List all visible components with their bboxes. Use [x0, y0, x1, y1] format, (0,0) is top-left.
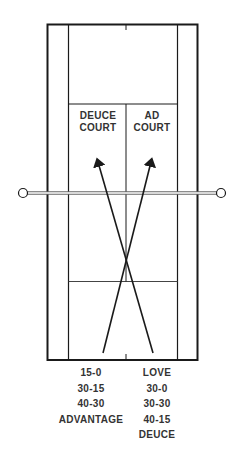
deuce-court-label: DEUCE COURT — [70, 110, 126, 134]
score: 40-15 — [127, 412, 187, 428]
score: 30-15 — [51, 381, 131, 397]
deuce-court-scores: 15-0 30-15 40-30 ADVANTAGE — [51, 365, 131, 427]
score: ADVANTAGE — [51, 412, 131, 428]
score: 15-0 — [51, 365, 131, 381]
ad-court-scores: LOVE 30-0 30-30 40-15 DEUCE — [127, 365, 187, 443]
serve-arrow-ad — [103, 162, 151, 353]
score: 40-30 — [51, 396, 131, 412]
net-post-right — [217, 189, 226, 198]
ad-court-label: AD COURT — [126, 110, 178, 134]
score: 30-30 — [127, 396, 187, 412]
score: 30-0 — [127, 381, 187, 397]
net-post-left — [19, 189, 28, 198]
score: LOVE — [127, 365, 187, 381]
score: DEUCE — [127, 427, 187, 443]
